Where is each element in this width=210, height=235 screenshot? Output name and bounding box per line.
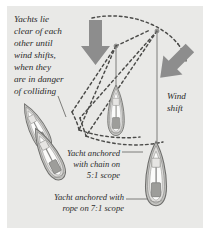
rope-scope-label: Yacht anchored with rope on 7:1 scope (44, 192, 124, 214)
leader-main-caption (58, 96, 66, 117)
main-caption: Yachts lie clear of each other until win… (14, 14, 88, 98)
wind-shift-label: Wind shift (167, 91, 207, 115)
wind-shift-arrow (151, 39, 200, 88)
figure-container: Yachts lie clear of each other until win… (0, 0, 210, 235)
anchor-rode-lines (116, 31, 157, 158)
yacht-chain (108, 85, 125, 136)
yacht-rope (146, 141, 167, 205)
chain-scope-label: Yacht anchored with chain on 5:1 scope (56, 148, 120, 182)
